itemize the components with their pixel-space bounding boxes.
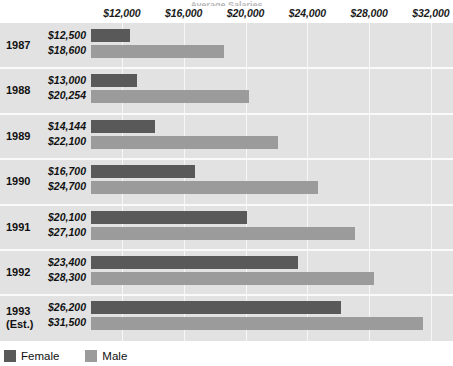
bar-male <box>91 90 249 103</box>
x-axis-tick-label: $20,000 <box>227 7 264 19</box>
x-axis-tick-label: $12,000 <box>103 7 140 19</box>
group-separator <box>0 249 453 251</box>
value-label-text: $27,100 <box>38 226 86 238</box>
bar-female <box>91 120 155 133</box>
bar-female <box>91 165 195 178</box>
year-label: 1987 <box>6 39 30 52</box>
year-label: 1993(Est.) <box>6 305 34 331</box>
gridline <box>369 23 370 341</box>
legend-swatch-icon <box>85 350 97 362</box>
bar-female <box>91 29 130 42</box>
salary-bar-chart: Average Salaries $12,000$16,000$20,000$2… <box>0 0 453 366</box>
bar-female <box>91 301 341 314</box>
year-label-text: 1989 <box>6 130 30 142</box>
gridline <box>431 23 432 341</box>
value-label-text: $28,300 <box>38 271 86 283</box>
value-label-text: $26,200 <box>38 301 86 313</box>
legend-item-female[interactable]: Female <box>4 350 59 362</box>
x-axis-tick-label: $32,000 <box>412 7 449 19</box>
year-label: 1989 <box>6 130 30 143</box>
year-label-text: 1993 <box>6 305 30 317</box>
value-label-text: $23,400 <box>38 256 86 268</box>
bar-female <box>91 211 247 224</box>
x-axis-tick-label: $24,000 <box>289 7 326 19</box>
legend-label: Male <box>102 350 127 362</box>
bar-male <box>91 136 278 149</box>
year-label-text: 1988 <box>6 84 30 96</box>
legend-swatch-icon <box>4 350 16 362</box>
value-label-text: $31,500 <box>38 316 86 328</box>
year-label-text: 1992 <box>6 266 30 278</box>
value-label-text: $20,100 <box>38 211 86 223</box>
x-axis-ticks: $12,000$16,000$20,000$24,000$28,000$32,0… <box>0 6 453 24</box>
bar-male <box>91 45 224 58</box>
year-label-text: 1990 <box>6 175 30 187</box>
group-separator <box>0 204 453 206</box>
plot-area: 1987$12,500$18,6001988$13,000$20,2541989… <box>0 23 453 341</box>
group-separator <box>0 158 453 160</box>
group-separator <box>0 67 453 69</box>
group-separator <box>0 294 453 296</box>
group-separator <box>0 113 453 115</box>
legend-label: Female <box>21 350 59 362</box>
value-label-text: $22,100 <box>38 135 86 147</box>
value-label-text: $13,000 <box>38 74 86 86</box>
year-label: 1988 <box>6 84 30 97</box>
year-label-estimate-note: (Est.) <box>6 318 34 331</box>
value-label-text: $18,600 <box>38 44 86 56</box>
bar-female <box>91 74 137 87</box>
bar-female <box>91 256 298 269</box>
year-label: 1990 <box>6 175 30 188</box>
x-axis-tick-label: $28,000 <box>350 7 387 19</box>
x-axis-tick-label: $16,000 <box>165 7 202 19</box>
bar-male <box>91 317 423 330</box>
value-label-text: $16,700 <box>38 165 86 177</box>
value-label-text: $12,500 <box>38 29 86 41</box>
value-label-text: $14,144 <box>38 120 86 132</box>
value-label-text: $24,700 <box>38 180 86 192</box>
bar-male <box>91 181 318 194</box>
year-label: 1992 <box>6 266 30 279</box>
year-label-text: 1987 <box>6 39 30 51</box>
bar-male <box>91 227 355 240</box>
legend-item-male[interactable]: Male <box>85 350 127 362</box>
bar-male <box>91 272 374 285</box>
year-label: 1991 <box>6 221 30 234</box>
value-label-text: $20,254 <box>38 89 86 101</box>
year-label-text: 1991 <box>6 221 30 233</box>
chart-legend: FemaleMale <box>0 345 453 366</box>
